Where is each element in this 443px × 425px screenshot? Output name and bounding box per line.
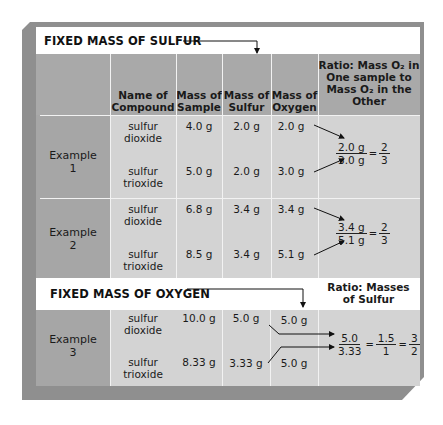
- compound-name: sulfurdioxide: [110, 312, 176, 336]
- mass-oxygen: 5.0 g: [270, 314, 318, 326]
- mass-sample: 8.5 g: [176, 248, 222, 260]
- ratio-example-2: 3.4 g5.1 g = 23: [336, 221, 390, 246]
- compound-name: sulfurtrioxide: [110, 248, 176, 272]
- fixed-sulfur-title: FIXED MASS OF SULFUR: [44, 34, 201, 48]
- header-name-of-compound: Name ofCompound: [110, 89, 176, 113]
- mass-sulfur: 5.0 g: [222, 312, 270, 324]
- mass-sulfur: 2.0 g: [222, 165, 271, 177]
- example-2-label: Example2: [36, 226, 110, 252]
- mass-oxygen: 5.0 g: [270, 357, 318, 369]
- mass-sulfur: 3.4 g: [222, 203, 271, 215]
- compound-name: sulfurdioxide: [110, 203, 176, 227]
- header-mass-of-sample: Mass ofSample: [176, 89, 222, 113]
- header-mass-of-sulfur: Mass ofSulfur: [222, 89, 271, 113]
- mass-sulfur: 3.4 g: [222, 248, 271, 260]
- mass-sample: 4.0 g: [176, 120, 222, 132]
- example-3-label: Example3: [36, 333, 110, 359]
- mass-sulfur: 2.0 g: [222, 120, 271, 132]
- compound-name: sulfurdioxide: [110, 120, 176, 144]
- header-ratio-sulfur: Ratio: Massesof Sulfur: [321, 281, 416, 305]
- mass-oxygen: 3.4 g: [271, 203, 311, 215]
- grid-line: [318, 310, 319, 386]
- header-ratio-oxygen: Ratio: Mass O₂ inOne sample to Mass O₂ i…: [318, 59, 420, 107]
- example-1-label: Example1: [36, 149, 110, 175]
- mass-sample: 5.0 g: [176, 165, 222, 177]
- grid-line: [318, 54, 319, 278]
- mass-sample: 10.0 g: [176, 312, 222, 324]
- compound-name: sulfurtrioxide: [110, 356, 176, 380]
- header-mass-of-oxygen: Mass ofOxygen: [271, 89, 318, 113]
- fixed-oxygen-band: FIXED MASS OF OXYGEN Ratio: Massesof Sul…: [36, 278, 420, 310]
- mass-sample: 6.8 g: [176, 203, 222, 215]
- mass-sulfur: 3.33 g: [222, 357, 270, 369]
- example-column-top: [36, 115, 110, 278]
- grid-line: [40, 198, 420, 199]
- mass-sample: 8.33 g: [176, 356, 222, 368]
- fixed-sulfur-band: FIXED MASS OF SULFUR: [36, 27, 420, 54]
- compound-name: sulfurtrioxide: [110, 165, 176, 189]
- mass-oxygen: 3.0 g: [271, 165, 311, 177]
- law-of-multiple-proportions-table: FIXED MASS OF SULFUR Name ofCompound Mas…: [36, 27, 420, 386]
- mass-oxygen: 5.1 g: [271, 248, 311, 260]
- fixed-oxygen-title: FIXED MASS OF OXYGEN: [50, 287, 210, 301]
- grid-line: [40, 115, 420, 116]
- ratio-example-1: 2.0 g3.0 g = 23: [336, 141, 390, 166]
- ratio-example-3: 5.03.33 = 1.51 = 32: [336, 332, 420, 357]
- mass-oxygen: 2.0 g: [271, 120, 311, 132]
